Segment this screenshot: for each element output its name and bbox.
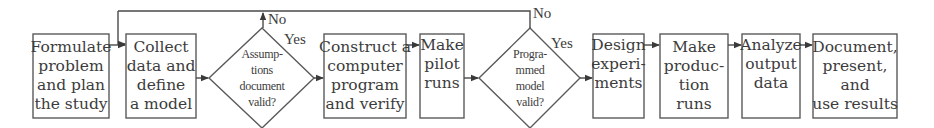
line: produc- [664, 57, 725, 76]
line: experi- [591, 55, 646, 74]
line: tion [679, 76, 710, 95]
line: present, [823, 57, 888, 76]
line: pilot [424, 55, 459, 74]
line: use results [812, 95, 898, 114]
loop-down-to-collect [118, 11, 125, 44]
line: mmed [516, 62, 545, 78]
node-production-label: Make produc- tion runs [660, 34, 728, 118]
line: model [516, 78, 545, 94]
line: and [840, 76, 869, 95]
line: the study [34, 95, 107, 114]
line: document [240, 78, 285, 94]
node-construct-label: Construct a computer program and verify [324, 34, 406, 118]
line: Collect [133, 38, 188, 57]
line: program [331, 76, 399, 95]
edge-label-assumptions-yes: Yes [284, 31, 306, 48]
edge-label-assumptions-no: No [268, 11, 286, 28]
line: a model [130, 95, 192, 114]
line: computer [327, 57, 402, 76]
line: Make [672, 38, 716, 57]
line: tions [251, 62, 273, 78]
node-document-label: Document, present, and use results [813, 34, 897, 118]
line: output [745, 55, 797, 74]
line: Analyze [740, 36, 801, 55]
node-analyze-label: Analyze output data [742, 36, 800, 92]
node-pilot-label: Make pilot runs [420, 36, 464, 92]
loop-programmed-no [118, 11, 530, 28]
line: Construct a [319, 38, 411, 57]
line: problem [38, 57, 103, 76]
line: Make [420, 36, 464, 55]
line: Design [591, 36, 645, 55]
node-programmed-label: Progra- mmed model valid? [489, 46, 571, 110]
node-collect-label: Collect data and define a model [126, 34, 196, 118]
line: runs [424, 74, 459, 93]
line: ments [594, 74, 642, 93]
line: valid? [248, 94, 276, 110]
line: Assump- [241, 46, 282, 62]
edge-label-programmed-yes: Yes [551, 35, 573, 52]
line: Document, [812, 38, 897, 57]
line: data and [127, 57, 196, 76]
line: and verify [326, 95, 405, 114]
line: define [137, 76, 186, 95]
line: and plan [37, 76, 105, 95]
node-formulate-label: Formulate problem and plan the study [33, 34, 109, 118]
line: data [754, 74, 789, 93]
line: Formulate [31, 38, 112, 57]
edge-label-programmed-no: No [533, 5, 551, 22]
line: valid? [516, 94, 544, 110]
line: Progra- [513, 46, 547, 62]
node-assumptions-label: Assump- tions document valid? [220, 46, 304, 110]
node-design-label: Design experi- ments [593, 36, 644, 92]
line: runs [676, 95, 711, 114]
